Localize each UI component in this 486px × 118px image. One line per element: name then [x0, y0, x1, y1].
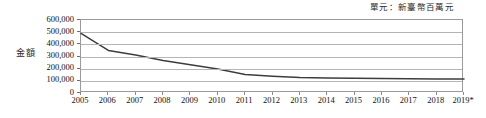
y-axis-tick-label: 300,000 — [46, 51, 74, 60]
x-axis-tick-mark — [244, 92, 245, 95]
chart-container: 單元：新臺幣百萬元 金額 0100,000200,000300,000400,0… — [0, 0, 486, 118]
x-axis-tick-label: 2012 — [263, 95, 280, 105]
x-axis-tick-label: 2019* — [452, 95, 473, 105]
chart-unit-caption: 單元：新臺幣百萬元 — [356, 1, 468, 13]
gridline — [81, 69, 462, 70]
x-axis-tick-mark — [162, 92, 163, 95]
gridline — [81, 44, 462, 45]
x-axis-tick-mark — [354, 92, 355, 95]
x-axis-tick-mark — [189, 92, 190, 95]
x-axis-tick-mark — [381, 92, 382, 95]
x-axis-tick-mark — [326, 92, 327, 95]
x-axis-tick-label: 2011 — [236, 95, 253, 105]
x-axis-tick-label: 2017 — [400, 95, 417, 105]
x-axis-tick-mark — [272, 92, 273, 95]
x-axis-tick-label: 2005 — [72, 95, 89, 105]
y-axis-tick-label: 400,000 — [46, 39, 74, 48]
x-axis-tick-mark — [463, 92, 464, 95]
x-axis-tick-label: 2015 — [345, 95, 362, 105]
x-axis-tick-labels: 2005200620072008200920102011201220132014… — [80, 95, 463, 111]
x-axis-tick-mark — [408, 92, 409, 95]
x-axis-tick-mark — [80, 92, 81, 95]
x-axis-tick-mark — [299, 92, 300, 95]
x-axis-tick-label: 2013 — [290, 95, 307, 105]
x-axis-tick-label: 2007 — [126, 95, 143, 105]
x-axis-tick-label: 2014 — [318, 95, 335, 105]
x-axis-tick-label: 2016 — [372, 95, 389, 105]
x-axis-tick-label: 2009 — [181, 95, 198, 105]
x-axis-tick-label: 2010 — [208, 95, 225, 105]
gridline — [81, 81, 462, 82]
x-axis-tick-mark — [107, 92, 108, 95]
x-axis-tick-label: 2018 — [427, 95, 444, 105]
y-axis-tick-label: 100,000 — [46, 75, 74, 84]
gridline — [81, 57, 462, 58]
y-axis-tick-label: 600,000 — [46, 15, 74, 24]
x-axis-tick-mark — [436, 92, 437, 95]
y-axis-tick-labels: 0100,000200,000300,000400,000500,000600,… — [0, 0, 78, 118]
y-axis-tick-label: 200,000 — [46, 63, 74, 72]
x-axis-tick-label: 2006 — [99, 95, 116, 105]
x-axis-tick-mark — [217, 92, 218, 95]
gridline — [81, 32, 462, 33]
plot-area — [80, 19, 463, 92]
x-axis-tick-label: 2008 — [154, 95, 171, 105]
x-axis-tick-mark — [135, 92, 136, 95]
y-axis-tick-label: 500,000 — [46, 27, 74, 36]
